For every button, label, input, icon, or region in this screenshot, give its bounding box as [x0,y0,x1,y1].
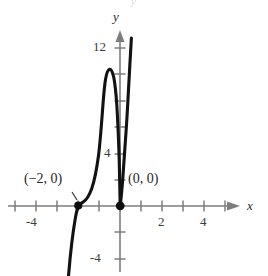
x-tick-label-4: 4 [200,215,207,228]
root-point-minus-two [74,202,82,210]
annotation-root-origin: (0, 0) [128,172,158,186]
y-tick-label-4: 4 [104,146,111,159]
x-axis-label: x [247,199,253,212]
y-tick-label-12: 12 [93,40,106,53]
leader-line-minus-two [72,192,77,200]
root-point-origin [116,201,125,210]
x-tick-label-minus-4: -4 [26,215,37,228]
annotation-root-minus-two: (−2, 0) [24,172,62,186]
graph-figure: y [0,0,268,276]
x-tick-label-2: 2 [158,215,165,228]
y-tick-label-minus-4: -4 [90,251,101,264]
coordinate-plane [0,0,268,276]
y-axis-label: y [113,10,119,23]
